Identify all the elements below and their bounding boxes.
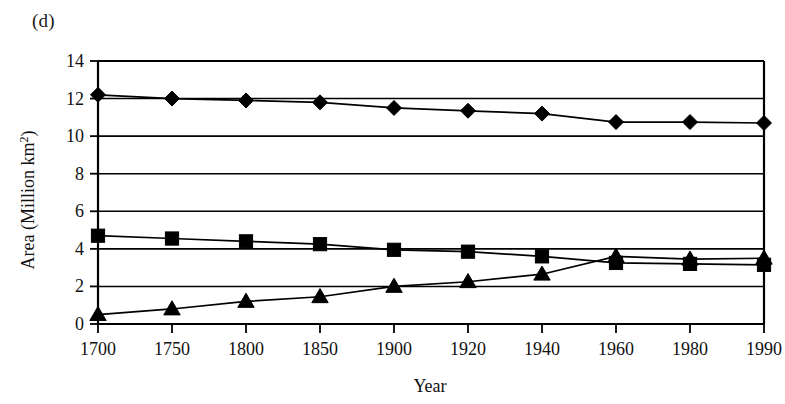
x-tick-marks-group — [98, 324, 764, 333]
data-point-diamond-1990 — [757, 115, 772, 130]
x-tick-label-1700: 1700 — [80, 339, 116, 359]
y-tick-label-8: 8 — [75, 164, 84, 184]
data-point-square-1800 — [239, 235, 252, 248]
x-tick-label-1960: 1960 — [598, 339, 634, 359]
y-axis-title-text: Area (Million km — [18, 143, 39, 270]
y-tick-label-14: 14 — [66, 51, 84, 71]
data-point-diamond-1940 — [535, 106, 550, 121]
data-point-square-1750 — [165, 232, 178, 245]
x-tick-label-1800: 1800 — [228, 339, 264, 359]
series-line-triangle — [98, 256, 764, 314]
x-tick-label-1940: 1940 — [524, 339, 560, 359]
svg-text:Area (Million km2): Area (Million km2) — [17, 131, 39, 270]
data-point-diamond-1980 — [683, 115, 698, 130]
data-point-diamond-1700 — [91, 87, 106, 102]
x-tick-label-1980: 1980 — [672, 339, 708, 359]
data-point-triangle-1960 — [608, 248, 624, 262]
y-tick-label-4: 4 — [75, 239, 84, 259]
x-tick-label-1750: 1750 — [154, 339, 190, 359]
data-point-triangle-1990 — [756, 250, 772, 264]
data-point-diamond-1750 — [165, 91, 180, 106]
y-tick-label-0: 0 — [75, 314, 84, 334]
data-point-diamond-1800 — [239, 93, 254, 108]
y-tick-label-10: 10 — [66, 126, 84, 146]
x-tick-label-1850: 1850 — [302, 339, 338, 359]
y-tick-label-2: 2 — [75, 276, 84, 296]
x-tick-label-1920: 1920 — [450, 339, 486, 359]
x-axis-title: Year — [413, 376, 446, 396]
x-tick-label-1990: 1990 — [746, 339, 782, 359]
data-point-square-1900 — [387, 243, 400, 256]
y-tick-label-6: 6 — [75, 201, 84, 221]
chart-figure: 02468101214 1700175018001850190019201940… — [0, 0, 785, 404]
data-point-square-1940 — [535, 250, 548, 263]
y-tick-label-12: 12 — [66, 89, 84, 109]
series-line-square — [98, 236, 764, 265]
x-tick-labels-group: 1700175018001850190019201940196019801990 — [80, 339, 782, 359]
y-axis-title: Area (Million km2) — [17, 131, 39, 270]
x-tick-label-1900: 1900 — [376, 339, 412, 359]
data-point-diamond-1850 — [313, 95, 328, 110]
data-point-diamond-1920 — [461, 103, 476, 118]
data-point-square-1850 — [313, 238, 326, 251]
data-point-diamond-1960 — [609, 115, 624, 130]
series-lines-group — [98, 95, 764, 315]
y-tick-labels-group: 02468101214 — [66, 51, 84, 334]
data-point-diamond-1900 — [387, 100, 402, 115]
y-axis-title-tail: ) — [18, 131, 39, 137]
data-point-square-1700 — [91, 229, 104, 242]
data-point-square-1920 — [461, 245, 474, 258]
